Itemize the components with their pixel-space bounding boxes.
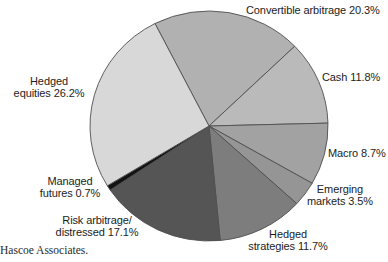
slice-label-hedged-strategies: Hedgedstrategies 11.7%	[248, 228, 328, 253]
pie-chart-figure: Convertible arbitrage 20.3%Cash 11.8%Mac…	[0, 0, 388, 262]
slice-label-cash: Cash 11.8%	[322, 71, 380, 83]
slice-label-convertible-arbitrage: Convertible arbitrage 20.3%	[246, 4, 380, 16]
slice-labels-layer: Convertible arbitrage 20.3%Cash 11.8%Mac…	[0, 0, 388, 262]
slice-label-emerging-markets: Emergingmarkets 3.5%	[307, 183, 373, 208]
slice-label-hedged-equities: Hedgedequities 26.2%	[14, 75, 85, 100]
source-caption: Hascoe Associates.	[0, 243, 88, 257]
slice-label-managed-futures: Managedfutures 0.7%	[40, 175, 101, 200]
slice-label-macro: Macro 8.7%	[328, 147, 386, 159]
slice-label-risk-arbitrage-distressed: Risk arbitrage/distressed 17.1%	[56, 214, 139, 239]
